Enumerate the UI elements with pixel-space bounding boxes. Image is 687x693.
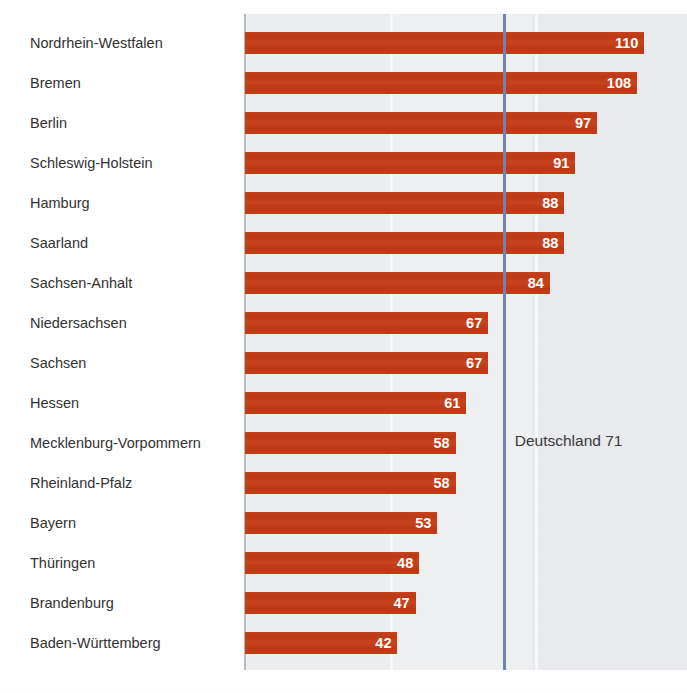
category-label: Schleswig-Holstein (0, 143, 225, 183)
bar-row: Rheinland-Pfalz58 (0, 463, 687, 503)
category-label: Hessen (0, 383, 225, 423)
category-label: Berlin (0, 103, 225, 143)
bar: 53 (245, 512, 437, 534)
bar-value-label: 61 (444, 392, 460, 414)
bar-row: Sachsen67 (0, 343, 687, 383)
bar: 61 (245, 392, 466, 414)
bar: 58 (245, 472, 456, 494)
bar-value-label: 58 (433, 472, 449, 494)
bar-row: Nordrhein-Westfalen110 (0, 23, 687, 63)
bar-row: Bayern53 (0, 503, 687, 543)
bar-value-label: 42 (375, 632, 391, 654)
bar-row: Sachsen-Anhalt84 (0, 263, 687, 303)
category-label: Niedersachsen (0, 303, 225, 343)
category-label: Saarland (0, 223, 225, 263)
bar: 47 (245, 592, 416, 614)
chart-title-cropped (0, 0, 687, 14)
bar-value-label: 58 (433, 432, 449, 454)
bar: 110 (245, 32, 644, 54)
bar-value-label: 53 (415, 512, 431, 534)
bar-value-label: 88 (542, 232, 558, 254)
bar-row: Hamburg88 (0, 183, 687, 223)
bar-value-label: 91 (553, 152, 569, 174)
bar: 88 (245, 232, 564, 254)
bar: 48 (245, 552, 419, 574)
bar: 88 (245, 192, 564, 214)
bar-row: Bremen108 (0, 63, 687, 103)
bar-row: Schleswig-Holstein91 (0, 143, 687, 183)
bar-value-label: 47 (393, 592, 409, 614)
bar-row: Brandenburg47 (0, 583, 687, 623)
bar-value-label: 67 (466, 352, 482, 374)
bar-value-label: 67 (466, 312, 482, 334)
category-label: Hamburg (0, 183, 225, 223)
bar-value-label: 88 (542, 192, 558, 214)
bar-value-label: 97 (575, 112, 591, 134)
bar: 97 (245, 112, 597, 134)
bar-row: Niedersachsen67 (0, 303, 687, 343)
bar-row: Baden-Württemberg42 (0, 623, 687, 663)
reference-line-deutschland (503, 14, 506, 670)
bar: 58 (245, 432, 456, 454)
category-label: Baden-Württemberg (0, 623, 225, 663)
bar-row: Thüringen48 (0, 543, 687, 583)
category-label: Bremen (0, 63, 225, 103)
reference-line-label: Deutschland 71 (515, 432, 623, 450)
bar-value-label: 108 (607, 72, 631, 94)
category-label: Rheinland-Pfalz (0, 463, 225, 503)
bar: 67 (245, 312, 488, 334)
category-label: Mecklenburg-Vorpommern (0, 423, 225, 463)
bar-row: Saarland88 (0, 223, 687, 263)
category-label: Sachsen-Anhalt (0, 263, 225, 303)
bar-value-label: 48 (397, 552, 413, 574)
bar-value-label: 84 (528, 272, 544, 294)
bar-row: Hessen61 (0, 383, 687, 423)
category-label: Brandenburg (0, 583, 225, 623)
bar: 67 (245, 352, 488, 374)
category-label: Nordrhein-Westfalen (0, 23, 225, 63)
bar: 91 (245, 152, 575, 174)
bar-row: Berlin97 (0, 103, 687, 143)
category-label: Sachsen (0, 343, 225, 383)
bar: 108 (245, 72, 637, 94)
bar: 42 (245, 632, 397, 654)
category-label: Bayern (0, 503, 225, 543)
bar-chart: Nordrhein-Westfalen110Bremen108Berlin97S… (0, 0, 687, 693)
bar-value-label: 110 (615, 32, 638, 54)
category-label: Thüringen (0, 543, 225, 583)
